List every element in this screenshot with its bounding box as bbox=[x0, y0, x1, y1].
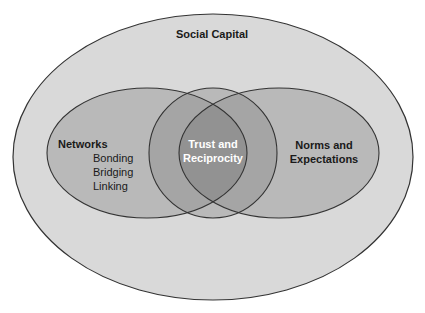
trust-label-line1: Trust and bbox=[188, 138, 238, 150]
norms-label-line1: Norms and bbox=[295, 139, 352, 151]
networks-item-bonding: Bonding bbox=[93, 152, 133, 164]
social-capital-label: Social Capital bbox=[176, 28, 248, 40]
networks-item-linking: Linking bbox=[93, 180, 128, 192]
networks-item-bridging: Bridging bbox=[93, 166, 133, 178]
trust-label-line2: Reciprocity bbox=[183, 152, 244, 164]
networks-label: Networks bbox=[58, 138, 108, 150]
norms-label-line2: Expectations bbox=[290, 153, 358, 165]
social-capital-venn-diagram: Social Capital Networks Bonding Bridging… bbox=[0, 0, 425, 313]
